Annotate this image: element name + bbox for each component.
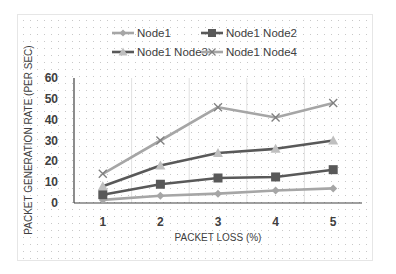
legend-item[interactable]: Node1 Node3 [112,46,208,58]
diamond-marker-icon [329,184,337,192]
legend-item[interactable]: Node1 Node4 [201,46,298,58]
diamond-marker-icon [120,30,127,37]
square-marker-icon [329,165,338,174]
x-axis: 12345 [74,203,362,229]
legend-label: Node1 Node4 [226,46,298,58]
square-marker-icon [271,172,280,181]
y-tick-label: 60 [45,71,59,85]
square-marker-icon [156,180,165,189]
y-tick-label: 20 [45,154,59,168]
square-marker-icon [98,190,107,199]
legend-label: Node1 Node2 [226,27,297,39]
legend-label: Node1 Node3 [137,46,208,58]
x-tick-label: 3 [215,215,222,229]
y-tick-label: 40 [45,113,59,127]
x-tick-label: 5 [330,215,337,229]
y-tick-label: 30 [45,134,59,148]
series-node1 [99,184,337,203]
y-tick-label: 0 [51,196,58,210]
y-tick-label: 10 [45,175,59,189]
series-node1-node4 [99,99,337,178]
series-line [103,103,333,174]
square-marker-icon [208,29,216,37]
series-layer [98,99,338,204]
y-axis: 0102030405060 [45,71,74,210]
x-tick-label: 2 [157,215,164,229]
diamond-marker-icon [214,190,222,198]
legend-label: Node1 [137,27,171,39]
diamond-marker-icon [272,187,280,195]
x-tick-label: 1 [99,215,106,229]
line-chart: 0102030405060 12345 Node1Node1 Node2Node… [0,0,396,274]
legend-item[interactable]: Node1 Node2 [201,27,297,39]
legend: Node1Node1 Node2Node1 Node3Node1 Node4 [112,27,298,58]
x-marker-icon [99,170,107,178]
diamond-marker-icon [156,192,164,200]
x-tick-label: 4 [272,215,279,229]
square-marker-icon [214,174,223,183]
legend-item[interactable]: Node1 [112,27,171,39]
x-marker-icon [156,137,164,145]
y-axis-title: PACKET GENERATION RATE (PER SEC) [23,45,34,234]
x-axis-title: PACKET LOSS (%) [175,232,262,243]
y-tick-label: 50 [45,92,59,106]
